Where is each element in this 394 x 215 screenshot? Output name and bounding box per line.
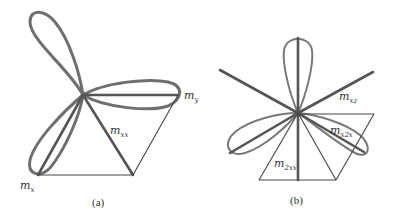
caption-a: (a) [92,196,105,209]
label-m-x2x: mx2x [330,124,353,139]
label-m-y: my [184,89,199,104]
label-m-x: mx [20,179,34,194]
label-m-xx: mxx [110,124,128,139]
panel-a: my mxx mx (a) [20,12,199,209]
lobe-upper-left [30,12,83,95]
label-m-xz: mxz [339,90,357,105]
label-m-2xx: m2xx [274,157,297,172]
figure: my mxx mx (a) mxz mx2x m2xx (b) [0,0,394,215]
panel-b: mxz mx2x m2xx (b) [220,38,374,207]
caption-b: (b) [290,194,303,207]
